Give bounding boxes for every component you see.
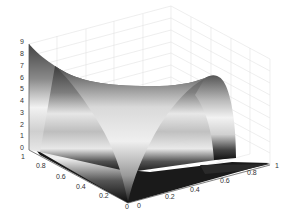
x-tick-0: 0 <box>137 202 141 209</box>
surface-plot: 9 8 7 6 5 4 3 2 1 0 1 0.8 0.6 0.4 0.2 0 … <box>0 0 294 219</box>
z-tick-6: 6 <box>20 74 24 81</box>
y-tick-0.4: 0.4 <box>76 183 86 190</box>
y-tick-0: 0 <box>125 203 129 210</box>
x-tick-0.6: 0.6 <box>220 177 230 184</box>
z-tick-9: 9 <box>20 38 24 45</box>
x-tick-0.2: 0.2 <box>165 193 175 200</box>
y-tick-0.2: 0.2 <box>99 192 109 199</box>
y-tick-0.8: 0.8 <box>36 162 46 169</box>
z-tick-0: 0 <box>20 144 24 151</box>
y-tick-1: 1 <box>21 153 25 160</box>
x-tick-1: 1 <box>275 162 279 169</box>
x-tick-0.8: 0.8 <box>247 169 257 176</box>
z-tick-5: 5 <box>20 85 24 92</box>
z-tick-4: 4 <box>20 97 24 104</box>
z-tick-2: 2 <box>20 121 24 128</box>
z-tick-1: 1 <box>20 132 24 139</box>
z-tick-3: 3 <box>20 109 24 116</box>
z-axis-ticks: 9 8 7 6 5 4 3 2 1 0 <box>20 38 24 151</box>
z-tick-7: 7 <box>20 62 24 69</box>
z-tick-8: 8 <box>20 50 24 57</box>
x-tick-0.4: 0.4 <box>190 186 200 193</box>
y-tick-0.6: 0.6 <box>56 173 66 180</box>
